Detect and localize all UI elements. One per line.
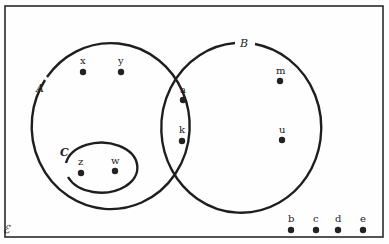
- point-c: c: [313, 213, 319, 233]
- point-label: b: [288, 213, 294, 224]
- point-y: y: [117, 55, 124, 75]
- point-e: e: [360, 213, 366, 233]
- point-label: x: [80, 55, 86, 66]
- universal-set-label: ℰ: [3, 223, 11, 236]
- universal-set-frame: [5, 6, 383, 237]
- point-label: m: [276, 65, 286, 76]
- set-b-label: B: [239, 37, 248, 50]
- point-label: u: [279, 124, 286, 135]
- point-dot: [118, 69, 124, 75]
- point-d: d: [335, 213, 342, 233]
- point-label: k: [179, 124, 186, 135]
- point-x: x: [80, 55, 86, 75]
- point-u: u: [279, 124, 286, 143]
- point-z: z: [78, 156, 84, 176]
- point-label: a: [180, 84, 186, 95]
- set-a-label: A: [35, 82, 44, 95]
- point-dot: [179, 138, 185, 144]
- point-label: e: [360, 213, 366, 224]
- point-dot: [279, 137, 285, 143]
- point-b: b: [288, 213, 295, 233]
- point-label: w: [111, 155, 120, 166]
- point-dot: [360, 227, 366, 233]
- point-label: z: [78, 156, 83, 167]
- point-dot: [180, 97, 186, 103]
- point-dot: [78, 170, 84, 176]
- set-a-boundary: [32, 43, 190, 209]
- point-a: a: [180, 84, 186, 103]
- point-label: y: [117, 55, 124, 66]
- point-w: w: [111, 155, 120, 174]
- set-c-boundary: [66, 143, 137, 193]
- point-label: c: [313, 213, 319, 224]
- point-dot: [313, 227, 319, 233]
- set-b-boundary: [161, 43, 321, 213]
- point-dot: [112, 168, 118, 174]
- point-dot: [335, 227, 341, 233]
- point-k: k: [179, 124, 186, 144]
- set-c-label: C: [60, 146, 69, 159]
- point-m: m: [276, 65, 286, 84]
- point-label: d: [335, 213, 342, 224]
- venn-diagram: ℰ A B C x y a k z w m u b: [0, 0, 389, 244]
- point-dot: [277, 78, 283, 84]
- point-dot: [80, 69, 86, 75]
- point-dot: [288, 227, 294, 233]
